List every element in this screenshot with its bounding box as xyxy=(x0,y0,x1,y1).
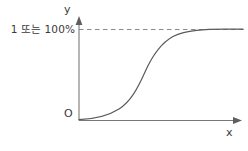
y-axis-arrowhead xyxy=(76,16,83,25)
sigmoid-curve-path xyxy=(79,29,243,119)
y-axis-tick-label-one-hundred-percent: 1 또는 100% xyxy=(11,24,75,35)
x-axis-label: x xyxy=(226,127,233,138)
origin-label: O xyxy=(64,108,73,119)
x-axis-arrowhead xyxy=(233,117,242,124)
sigmoid-curve-figure: y x O 1 또는 100% xyxy=(0,0,248,151)
y-axis-label: y xyxy=(64,4,71,15)
